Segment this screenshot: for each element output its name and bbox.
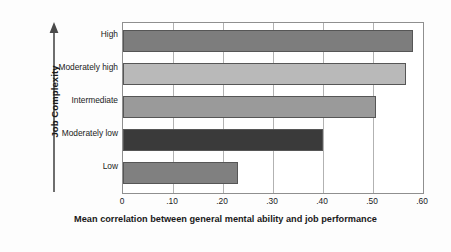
bar-intermediate [123,96,376,118]
bar-high [123,30,413,52]
bar-low [123,162,238,184]
y-axis-tick-label: Intermediate [58,96,118,104]
x-axis-tick-label: .60 [416,196,428,206]
y-axis-tick-label: High [58,30,118,38]
y-axis-tick-label: Low [58,162,118,170]
plot-area [122,22,424,194]
x-axis-tick-label: .10 [166,196,178,206]
y-axis-tick-label: Moderately low [58,129,118,137]
x-axis-title: Mean correlation between general mental … [0,214,451,224]
x-axis-tick-label: .40 [316,196,328,206]
y-axis-tick-label: Moderately high [58,63,118,71]
x-axis-tick-label: .20 [216,196,228,206]
x-axis-tick-label: 0 [120,196,125,206]
bar-moderately-high [123,63,406,85]
x-axis-tick-labels: 0 .10 .20 .30 .40 .50 .60 [122,196,422,210]
y-axis-tick-labels: High Moderately high Intermediate Modera… [58,24,118,190]
bar-chart-figure: Job Complexity High Moderately high Inte… [0,0,451,252]
bar-moderately-low [123,129,323,151]
x-axis-tick-label: .30 [266,196,278,206]
x-axis-tick-label: .50 [366,196,378,206]
